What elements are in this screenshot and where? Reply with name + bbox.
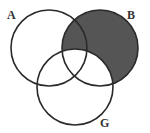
venn-svg: A B G [0, 0, 150, 133]
label-g: G [100, 116, 109, 130]
label-a: A [7, 8, 16, 22]
label-b: B [127, 8, 135, 22]
venn-diagram: A B G [0, 0, 150, 133]
